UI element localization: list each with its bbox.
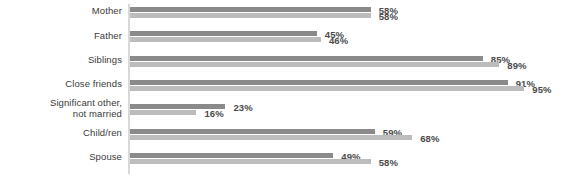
category-label-line: Significant other, bbox=[50, 97, 122, 108]
bar bbox=[130, 135, 412, 140]
bar bbox=[130, 56, 483, 61]
bar-row bbox=[130, 80, 508, 85]
category-label-line: Mother bbox=[92, 5, 122, 16]
bar-row bbox=[130, 159, 371, 164]
bar bbox=[130, 7, 371, 12]
category-label-line: Spouse bbox=[89, 151, 122, 162]
bar bbox=[130, 129, 375, 134]
bar bbox=[130, 80, 508, 85]
bar bbox=[130, 31, 317, 36]
bar bbox=[130, 37, 321, 42]
bar-row bbox=[130, 31, 317, 36]
category-label-line: Father bbox=[94, 30, 122, 41]
bar-row bbox=[130, 37, 321, 42]
category-label: Father bbox=[4, 31, 122, 42]
bar bbox=[130, 62, 499, 67]
horizontal-bar-chart: 58%58%Mother45%46%Father85%89%Siblings91… bbox=[0, 0, 574, 178]
bar-row bbox=[130, 7, 371, 12]
category-label-line: Close friends bbox=[65, 78, 122, 89]
bar bbox=[130, 159, 371, 164]
category-label-line: Child/ren bbox=[83, 127, 122, 138]
bar bbox=[130, 13, 371, 18]
bar-value-label: 58% bbox=[379, 158, 398, 167]
category-label: Mother bbox=[4, 6, 122, 17]
plot-area: 58%58%Mother45%46%Father85%89%Siblings91… bbox=[0, 0, 574, 178]
bar-row bbox=[130, 13, 371, 18]
bar-value-label: 58% bbox=[379, 12, 398, 21]
bar-row bbox=[130, 56, 483, 61]
bar-row bbox=[130, 86, 524, 91]
category-label-line: not married bbox=[4, 109, 122, 120]
bar-row bbox=[130, 62, 499, 67]
bar-value-label: 68% bbox=[420, 134, 439, 143]
bar-row bbox=[130, 104, 225, 109]
bar-row bbox=[130, 110, 196, 115]
bar-row bbox=[130, 135, 412, 140]
bar-value-label: 16% bbox=[204, 109, 223, 118]
bar-value-label: 46% bbox=[329, 36, 348, 45]
bar bbox=[130, 86, 524, 91]
category-label-line: Siblings bbox=[88, 54, 122, 65]
bar-value-label: 89% bbox=[507, 61, 526, 70]
category-label: Close friends bbox=[4, 79, 122, 90]
category-label: Spouse bbox=[4, 152, 122, 163]
category-label: Siblings bbox=[4, 55, 122, 66]
bar bbox=[130, 110, 196, 115]
bar-value-label: 23% bbox=[233, 103, 252, 112]
category-label: Child/ren bbox=[4, 128, 122, 139]
bar-row bbox=[130, 129, 375, 134]
bar-value-label: 95% bbox=[532, 85, 551, 94]
bar bbox=[130, 104, 225, 109]
category-label: Significant other,not married bbox=[4, 98, 122, 119]
bar-row bbox=[130, 153, 333, 158]
bar bbox=[130, 153, 333, 158]
